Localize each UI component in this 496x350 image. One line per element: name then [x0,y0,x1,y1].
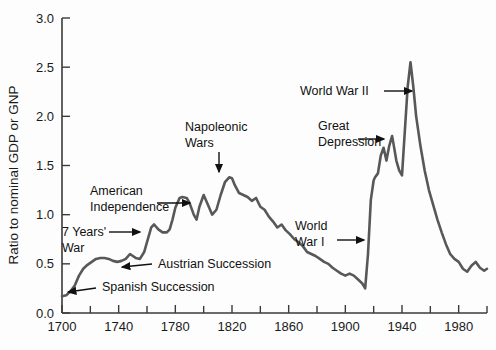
debt-to-gdp-line-chart: 0.00.51.01.52.02.53.0 Ratio to nominal G… [0,0,496,350]
annotation-label-spanish-succession: Spanish Succession [102,280,215,294]
chart-background [0,0,496,350]
x-tick-label: 1820 [218,319,247,334]
y-tick-label: 0.5 [36,256,54,271]
y-tick-label: 2.0 [36,109,54,124]
x-tick-label: 1860 [274,319,303,334]
y-axis-title: Ratio to nominal GDP or GNP [6,85,21,264]
x-tick-label: 1940 [388,319,417,334]
x-tick-label: 1780 [161,319,190,334]
annotation-label-austrian-succession: Austrian Succession [158,257,271,271]
annotation-label-world-war-ii: World War II [300,84,369,98]
y-tick-label: 1.5 [36,158,54,173]
y-tick-label: 2.5 [36,60,54,75]
y-tick-label: 1.0 [36,207,54,222]
chart-container: 0.00.51.01.52.02.53.0 Ratio to nominal G… [0,0,496,350]
x-tick-label: 1740 [104,319,133,334]
x-tick-label: 1980 [444,319,473,334]
y-tick-label: 3.0 [36,11,54,26]
x-tick-label: 1700 [48,319,77,334]
x-tick-label: 1900 [331,319,360,334]
